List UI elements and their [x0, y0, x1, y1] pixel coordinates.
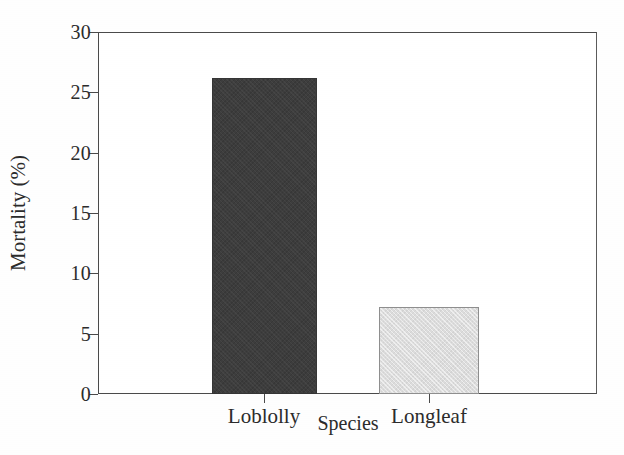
bar-loblolly [212, 78, 317, 394]
y-tick-label: 20 [71, 143, 91, 163]
plot-area: 051015202530 [98, 32, 597, 394]
y-tick-label: 5 [81, 324, 91, 344]
x-category-label-longleaf: Longleaf [391, 404, 467, 429]
y-axis-title: Mortality (%) [6, 155, 31, 271]
x-axis-title: Species [317, 412, 378, 435]
bar-longleaf [379, 307, 479, 394]
y-tick-label: 10 [71, 263, 91, 283]
figure-canvas: 051015202530 Mortality (%) Species Loblo… [0, 0, 624, 455]
y-tick-label: 0 [81, 384, 91, 404]
x-category-label-loblolly: Loblolly [228, 404, 300, 429]
y-tick-label: 25 [71, 82, 91, 102]
x-tick-mark [429, 394, 430, 403]
y-tick-label: 15 [71, 203, 91, 223]
x-tick-mark [264, 394, 265, 403]
y-tick-label: 30 [71, 22, 91, 42]
